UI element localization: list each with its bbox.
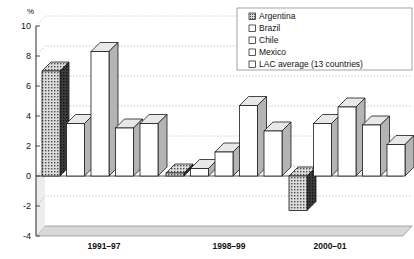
legend-label-argentina: Argentina [259, 11, 296, 21]
legend: Argentina Brazil Chile Mexico LAC averag… [237, 8, 412, 70]
y-tick-6: 6 [26, 81, 31, 91]
legend-swatch-mexico [249, 49, 256, 56]
chart-container: % 10 8 6 4 2 0 -2 -4 1991–97 1998–99 200… [0, 0, 414, 259]
bar-chart-svg: % 10 8 6 4 2 0 -2 -4 1991–97 1998–99 200… [0, 0, 414, 259]
y-tick-neg2: -2 [23, 201, 31, 211]
bar-argentina-1991-97 [42, 62, 69, 176]
bar-chile-1998-99 [215, 143, 242, 176]
x-category-label-3: 2000–01 [313, 241, 346, 251]
legend-swatch-brazil [249, 25, 256, 32]
x-category-label-2: 1998–99 [212, 241, 245, 251]
y-tick-4: 4 [26, 111, 31, 121]
bar-lac-average-13-countries-1998-99 [264, 122, 291, 176]
legend-label-mexico: Mexico [259, 47, 286, 57]
legend-item-lac-average[interactable]: LAC average (13 countries) [249, 59, 363, 69]
y-axis-unit-label: % [27, 7, 34, 16]
legend-label-lac-average: LAC average (13 countries) [259, 59, 363, 69]
legend-label-chile: Chile [259, 35, 279, 45]
bar-lac-average-13-countries-1991-97 [140, 115, 167, 177]
legend-item-mexico[interactable]: Mexico [249, 47, 286, 57]
legend-item-chile[interactable]: Chile [249, 35, 279, 45]
bar-brazil-1998-99 [191, 160, 218, 177]
bar-mexico-1998-99 [240, 97, 267, 177]
y-tick-0: 0 [26, 171, 31, 181]
bar-brazil-2000-01 [314, 115, 341, 177]
y-tick-10: 10 [21, 21, 31, 31]
y-tick-8: 8 [26, 51, 31, 61]
bar-argentina-2000-01 [289, 167, 316, 211]
legend-swatch-lac-average [249, 61, 256, 68]
bar-mexico-2000-01 [363, 116, 390, 176]
legend-label-brazil: Brazil [259, 23, 280, 33]
y-tick-neg4: -4 [23, 231, 31, 241]
legend-swatch-chile [249, 37, 256, 44]
bar-chile-2000-01 [338, 98, 365, 176]
bar-brazil-1991-97 [67, 115, 94, 177]
bar-mexico-1991-97 [116, 119, 143, 176]
y-tick-2: 2 [26, 141, 31, 151]
legend-swatch-argentina [249, 13, 256, 20]
bar-lac-average-13-countries-2000-01 [387, 136, 414, 177]
legend-item-brazil[interactable]: Brazil [249, 23, 280, 33]
bar-chile-1991-97 [91, 43, 118, 177]
x-category-label-1: 1991–97 [87, 241, 120, 251]
